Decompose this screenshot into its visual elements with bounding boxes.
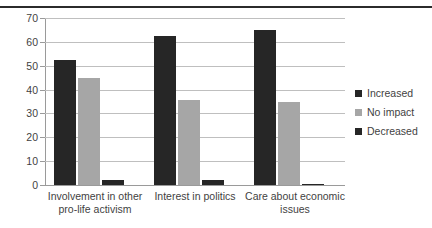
y-tick-label-60: 60 (4, 37, 38, 47)
y-tick-label-0: 0 (4, 180, 38, 190)
legend-label-decreased: Decreased (367, 126, 418, 137)
y-tick-30 (40, 113, 45, 114)
bar-no-impact-0 (78, 78, 100, 185)
bar-decreased-0 (102, 180, 124, 185)
bar-decreased-1 (202, 180, 224, 185)
gridline-0 (45, 185, 345, 186)
top-horizontal-rule (0, 6, 432, 8)
y-tick-label-70: 70 (4, 13, 38, 23)
gridline-50 (45, 66, 345, 67)
y-tick-label-40: 40 (4, 85, 38, 95)
category-label-line1: Care about economic (230, 190, 360, 203)
bar-decreased-2 (302, 184, 324, 185)
category-label-line2: issues (230, 203, 360, 216)
y-tick-label-20: 20 (4, 132, 38, 142)
bar-chart-figure: 010203040506070 Increased No impact Decr… (0, 0, 432, 228)
legend-swatch-increased (355, 90, 362, 97)
y-tick-10 (40, 161, 45, 162)
chart-legend: Increased No impact Decreased (355, 84, 432, 141)
gridline-70 (45, 18, 345, 19)
bar-increased-0 (54, 60, 76, 185)
legend-item-decreased[interactable]: Decreased (355, 122, 432, 141)
legend-label-increased: Increased (367, 88, 413, 99)
y-tick-20 (40, 137, 45, 138)
y-tick-40 (40, 90, 45, 91)
legend-item-increased[interactable]: Increased (355, 84, 432, 103)
y-tick-50 (40, 66, 45, 67)
y-tick-0 (40, 185, 45, 186)
y-tick-label-30: 30 (4, 108, 38, 118)
y-tick-label-10: 10 (4, 156, 38, 166)
legend-item-no-impact[interactable]: No impact (355, 103, 432, 122)
category-label-2: Care about economicissues (230, 190, 360, 215)
y-tick-60 (40, 42, 45, 43)
category-label-line2: pro-life activism (30, 203, 160, 216)
legend-swatch-decreased (355, 128, 362, 135)
y-tick-label-50: 50 (4, 61, 38, 71)
bar-no-impact-2 (278, 102, 300, 186)
gridline-60 (45, 42, 345, 43)
y-tick-70 (40, 18, 45, 19)
legend-label-no-impact: No impact (367, 107, 414, 118)
bar-increased-1 (154, 36, 176, 185)
bar-no-impact-1 (178, 100, 200, 185)
plot-area (45, 18, 345, 185)
legend-swatch-no-impact (355, 109, 362, 116)
bar-increased-2 (254, 30, 276, 185)
